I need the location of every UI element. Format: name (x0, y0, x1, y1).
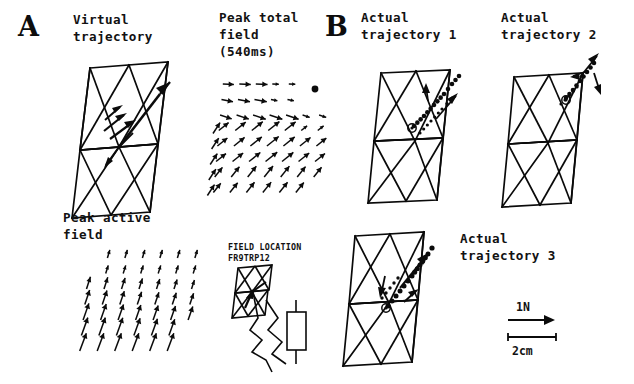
actual-trajectory-1-label-line2: trajectory 1 (361, 27, 457, 42)
virtual-trajectory-label-line2: trajectory (73, 29, 153, 44)
panel-letter-b: B (325, 11, 348, 42)
actual-trajectory-3-label-line1: Actual (460, 231, 508, 246)
actual-trajectory-2-label-line1: Actual (501, 10, 549, 25)
scale-distance-label: 2cm (512, 344, 533, 358)
virtual-trajectory-label-line1: Virtual (73, 12, 129, 27)
figure-canvas: A Virtual trajectory (0, 0, 634, 384)
peak-total-field-equilibrium-dot (312, 86, 319, 93)
peak-active-field-label-line2: field (63, 227, 103, 242)
field-location-label-line1: FIELD LOCATION (228, 242, 301, 252)
peak-total-field-label-line1: Peak total (219, 10, 299, 25)
peak-total-field-label-line3: (540ms) (219, 44, 275, 59)
actual-trajectory-1-label-line1: Actual (361, 10, 409, 25)
peak-active-field-label-line1: Peak active (63, 210, 151, 225)
scale-force-label: 1N (516, 300, 530, 314)
figure-background (0, 0, 634, 384)
actual-trajectory-3-label-line2: trajectory 3 (460, 248, 556, 263)
actual-trajectory-2-label-line2: trajectory 2 (501, 27, 597, 42)
field-location-label-line2: FR9TRP12 (228, 253, 270, 263)
actual-trajectory-3-endpoint-dot (429, 245, 434, 250)
peak-total-field-label-line2: field (219, 27, 259, 42)
panel-letter-a: A (17, 11, 40, 42)
